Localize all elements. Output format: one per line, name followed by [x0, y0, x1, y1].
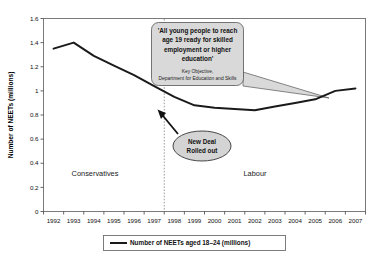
- x-tick-label: 2003: [268, 217, 282, 224]
- y-tick-label: 0.2: [30, 184, 39, 191]
- policy-callout-line: education': [182, 55, 214, 62]
- policy-callout-source-line: Department for Education and Skills: [158, 76, 237, 81]
- policy-callout-source-line: Key Objective,: [182, 69, 214, 74]
- x-tick-label: 1995: [107, 217, 121, 224]
- era-label-conservatives: Conservatives: [72, 169, 119, 178]
- x-tick-label: 2005: [308, 217, 322, 224]
- new-deal-line: New Deal: [188, 138, 216, 145]
- x-tick-label: 1999: [188, 217, 202, 224]
- y-axis-title: Number of NEETs (millions): [7, 72, 15, 159]
- x-tick-label: 2006: [328, 217, 342, 224]
- x-tick-label: 1992: [47, 217, 61, 224]
- y-tick-label: 0.6: [30, 135, 39, 142]
- y-tick-label: 1: [35, 87, 39, 94]
- x-tick-label: 2002: [248, 217, 262, 224]
- x-tick-label: 1996: [127, 217, 141, 224]
- x-tick-label: 2001: [228, 217, 242, 224]
- policy-callout-line: employment or higher: [164, 46, 232, 54]
- era-label-labour: Labour: [243, 169, 267, 178]
- x-tick-label: 2000: [208, 217, 222, 224]
- y-tick-label: 0.4: [30, 159, 39, 166]
- x-tick-label: 1994: [87, 217, 101, 224]
- x-tick-label: 1993: [67, 217, 81, 224]
- neet-line-chart: 00.20.40.60.811.21.41.6 1992199319941995…: [0, 0, 388, 261]
- y-tick-label: 1.4: [30, 39, 39, 46]
- x-tick-label: 2007: [349, 217, 363, 224]
- x-tick-label: 2004: [288, 217, 302, 224]
- y-tick-label: 0: [35, 208, 39, 215]
- x-tick-label: 1998: [167, 217, 181, 224]
- legend-label-neets: Number of NEETs aged 18–24 (millions): [130, 239, 250, 247]
- y-tick-label: 1.6: [30, 15, 39, 22]
- new-deal-line: Rolled out: [187, 147, 219, 154]
- y-tick-label: 0.8: [30, 111, 39, 118]
- policy-callout-line: age 19 ready for skilled: [162, 36, 233, 44]
- policy-callout-line: 'All young people to reach: [158, 27, 238, 35]
- x-tick-label: 1997: [147, 217, 161, 224]
- y-tick-label: 1.2: [30, 63, 39, 70]
